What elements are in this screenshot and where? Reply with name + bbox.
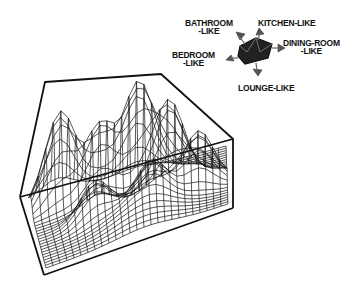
label-bedroom: BEDROOM-LIKE [172,51,215,67]
surface-mesh [28,82,228,269]
label-kitchen: KITCHEN-LIKE [258,19,316,27]
label-lounge: LOUNGE-LIKE [238,84,294,92]
label-bathroom: BATHROOM-LIKE [185,19,233,35]
bounding-box [20,74,233,275]
label-dining-room: DINING-ROOM-LIKE [283,39,340,55]
figure: BATHROOM-LIKE KITCHEN-LIKE DINING-ROOM-L… [0,0,352,291]
room-direction-key-icon [226,28,285,76]
